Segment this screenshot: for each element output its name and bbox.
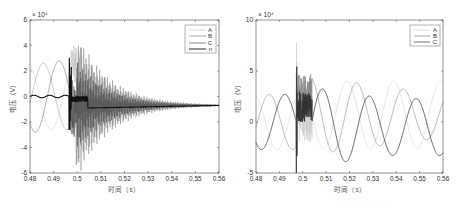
x-tick-label: 0.53 <box>367 175 380 182</box>
y-tick-label: 0 <box>23 93 27 100</box>
right-legend: A B C <box>410 25 440 46</box>
left-legend: A B C n <box>185 25 216 53</box>
left-legend-b: B <box>208 33 212 39</box>
x-tick-label: 0.49 <box>47 175 60 182</box>
x-tick-label: 0.53 <box>142 175 155 182</box>
left-y-exponent: × 10⁴ <box>32 11 48 18</box>
right-legend-c: C <box>433 39 438 45</box>
x-tick-label: 0.54 <box>165 175 178 182</box>
y-tick-label: 10 <box>246 16 254 23</box>
x-tick-label: 0.55 <box>413 175 426 182</box>
x-tick-label: 0.5 <box>298 175 307 182</box>
x-tick-label: 0.49 <box>273 175 286 182</box>
x-tick-label: 0.48 <box>24 175 37 182</box>
left-legend-n: n <box>209 46 212 52</box>
x-tick-label: 0.55 <box>189 175 202 182</box>
y-tick-label: -6 <box>21 169 27 176</box>
left-plot-lines <box>30 46 219 171</box>
right-y-exponent: × 10⁴ <box>258 11 274 18</box>
right-x-label: 时间（s） <box>334 185 365 194</box>
right-y-label: 电压（V） <box>233 81 242 113</box>
x-tick-label: 0.48 <box>250 175 263 182</box>
figure-canvas: 0.480.490.50.510.520.530.540.550.56-6-4-… <box>0 0 459 209</box>
right-plot-lines <box>256 43 443 173</box>
left-y-label: 电压（V） <box>8 81 17 113</box>
x-tick-label: 0.51 <box>320 175 333 182</box>
x-tick-label: 0.56 <box>213 175 226 182</box>
y-tick-label: -4 <box>21 144 27 151</box>
x-tick-label: 0.52 <box>118 175 131 182</box>
right-plot: 0.480.490.50.510.520.530.540.550.56-5051… <box>233 11 450 194</box>
y-tick-label: 5 <box>249 67 253 74</box>
y-tick-label: -5 <box>247 169 253 176</box>
x-tick-label: 0.56 <box>437 175 450 182</box>
y-tick-label: 6 <box>23 16 27 23</box>
x-tick-label: 0.54 <box>390 175 403 182</box>
x-tick-label: 0.5 <box>73 175 82 182</box>
y-tick-label: 4 <box>23 42 27 49</box>
y-tick-label: 2 <box>23 67 27 74</box>
y-tick-label: -2 <box>21 118 27 125</box>
x-tick-label: 0.52 <box>343 175 356 182</box>
x-tick-label: 0.51 <box>95 175 108 182</box>
left-x-label: 时间（s） <box>108 185 139 194</box>
left-plot: 0.480.490.50.510.520.530.540.550.56-6-4-… <box>8 11 226 194</box>
faint-caption: · · · · · · · · <box>340 198 393 204</box>
y-tick-label: 0 <box>249 118 253 125</box>
